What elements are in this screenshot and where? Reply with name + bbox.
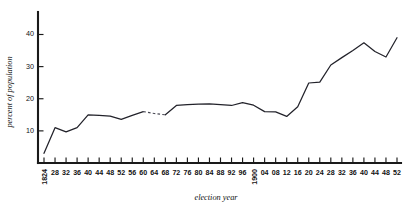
- y-axis-tick-labels: 10203040: [26, 29, 34, 134]
- x-tick-label-1932: 32: [338, 169, 346, 177]
- data-series-dashed-segment: [143, 112, 165, 115]
- x-tick-label-1940: 40: [360, 169, 368, 177]
- x-tick-label-1844: 44: [95, 169, 103, 177]
- x-tick-label-1832: 32: [62, 169, 70, 177]
- x-tick-label-1908: 08: [272, 169, 280, 177]
- x-tick-label-1952: 52: [393, 169, 401, 177]
- axes: [38, 12, 401, 163]
- x-tick-label-1872: 72: [172, 169, 180, 177]
- y-axis-title: percent of population: [5, 56, 14, 128]
- x-tick-label-1892: 92: [228, 169, 236, 177]
- x-tick-label-1852: 52: [117, 169, 125, 177]
- x-tick-label-1868: 68: [161, 169, 169, 177]
- data-series-line: [44, 38, 397, 154]
- x-tick-label-1936: 36: [349, 169, 357, 177]
- x-tick-label-1880: 80: [194, 169, 202, 177]
- x-tick-label-1884: 84: [206, 169, 214, 177]
- x-tick-label-1828: 28: [51, 169, 59, 177]
- x-axis-title: election year: [194, 193, 238, 202]
- y-tick-label-40: 40: [26, 29, 34, 38]
- line-chart: 10203040 1824283236404448525660646872768…: [0, 0, 407, 212]
- x-tick-label-1948: 48: [382, 169, 390, 177]
- x-tick-label-1876: 76: [183, 169, 191, 177]
- x-tick-label-1920: 20: [305, 169, 313, 177]
- chart-figure: 10203040 1824283236404448525660646872768…: [0, 0, 407, 212]
- x-tick-label-1864: 64: [150, 169, 158, 177]
- x-tick-label-1928: 28: [327, 169, 335, 177]
- y-tick-label-10: 10: [26, 126, 34, 135]
- x-tick-label-1860: 60: [139, 169, 147, 177]
- y-tick-label-20: 20: [26, 94, 34, 103]
- x-tick-label-1900: 1900: [251, 169, 259, 185]
- x-tick-label-1848: 48: [106, 169, 114, 177]
- x-tick-label-1912: 12: [283, 169, 291, 177]
- x-tick-label-1916: 16: [294, 169, 302, 177]
- x-tick-label-1904: 04: [261, 169, 269, 177]
- y-tick-label-30: 30: [26, 62, 34, 71]
- x-tick-label-1856: 56: [128, 169, 136, 177]
- x-tick-label-1924: 24: [316, 169, 324, 177]
- x-tick-label-1888: 88: [217, 169, 225, 177]
- x-tick-label-1824: 1824: [41, 169, 49, 185]
- x-tick-label-1840: 40: [84, 169, 92, 177]
- x-tick-label-1896: 96: [239, 169, 247, 177]
- x-axis-tick-labels: 1824283236404448525660646872768084889296…: [41, 169, 401, 185]
- x-tick-label-1944: 44: [371, 169, 379, 177]
- x-tick-label-1836: 36: [73, 169, 81, 177]
